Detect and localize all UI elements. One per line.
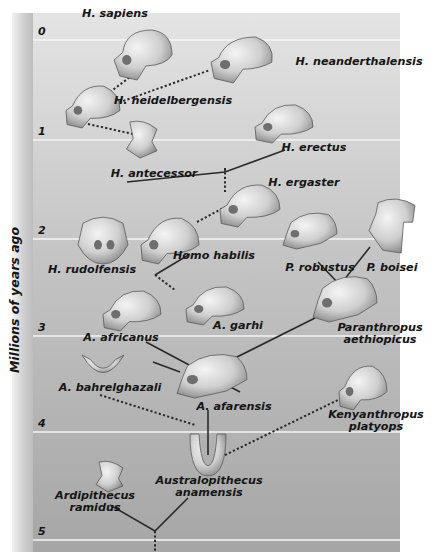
species-label-h-heidelbergensis: H. heidelbergensis [114, 95, 232, 107]
species-label-h-erectus: H. erectus [282, 142, 347, 154]
species-label-ardipithecus-ramidus: Ardipithecusramidus [55, 490, 135, 514]
species-label-h-neanderthalensis: H. neanderthalensis [295, 56, 422, 68]
hominin-phylogeny-diagram: Millions of years ago 012345 H. sapiensH… [0, 0, 436, 552]
tick-label-1: 1 [38, 125, 46, 138]
species-label-australopithecus-anamensis: Australopithecusanamensis [155, 475, 262, 499]
tick-label-2: 2 [38, 224, 46, 237]
species-label-a-bahrelghazali: A. bahrelghazali [59, 382, 162, 394]
species-label-h-sapiens: H. sapiens [82, 8, 148, 20]
species-label-paranthropus-aethiopicus: Paranthropusaethiopicus [337, 322, 422, 346]
tick-label-0: 0 [38, 25, 46, 38]
tick-label-3: 3 [38, 321, 46, 334]
diagram-canvas [0, 0, 436, 552]
y-axis-label-text: Millions of years ago [7, 227, 22, 373]
species-label-p-boisei: P. boisei [366, 262, 417, 274]
species-label-homo-habilis: Homo habilis [173, 250, 255, 262]
species-label-h-antecessor: H. antecessor [111, 168, 198, 180]
species-label-kenyanthropus-platyops: Kenyanthropusplatyops [328, 409, 424, 433]
species-label-a-afarensis: A. afarensis [196, 401, 271, 413]
species-label-h-rudolfensis: H. rudolfensis [48, 264, 136, 276]
species-label-h-ergaster: H. ergaster [268, 177, 339, 189]
species-label-a-africanus: A. africanus [83, 332, 159, 344]
y-axis-label: Millions of years ago [4, 200, 24, 400]
species-label-p-robustus: P. robustus [285, 262, 354, 274]
tick-label-4: 4 [38, 417, 46, 430]
tick-label-5: 5 [38, 525, 46, 538]
species-label-a-garhi: A. garhi [213, 320, 263, 332]
